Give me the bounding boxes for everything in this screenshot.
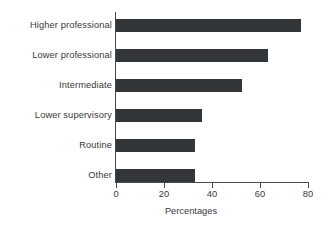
- category-label-other: Other: [4, 170, 112, 181]
- x-tick-label-60: 60: [255, 189, 265, 200]
- x-axis-title: Percentages: [0, 206, 332, 217]
- bar-chart: Higher professional Lower professional I…: [0, 0, 332, 231]
- bar-higher-professional: [116, 19, 301, 32]
- category-label-lower-professional: Lower professional: [4, 50, 112, 61]
- x-tick-80: [308, 183, 309, 188]
- category-label-intermediate: Intermediate: [4, 80, 112, 91]
- bar-lower-professional: [116, 49, 268, 62]
- x-tick-60: [260, 183, 261, 188]
- x-tick-label-40: 40: [207, 189, 217, 200]
- category-axis-labels: Higher professional Lower professional I…: [0, 0, 112, 231]
- plot-area: [116, 12, 308, 182]
- bar-other: [116, 169, 195, 182]
- x-tick-label-0: 0: [113, 189, 118, 200]
- y-axis-line: [115, 12, 116, 182]
- category-label-lower-supervisory: Lower supervisory: [4, 110, 112, 121]
- category-label-routine: Routine: [4, 140, 112, 151]
- x-tick-40: [212, 183, 213, 188]
- bar-intermediate: [116, 79, 242, 92]
- category-label-higher-professional: Higher professional: [4, 20, 112, 31]
- x-tick-label-80: 80: [303, 189, 313, 200]
- bar-routine: [116, 139, 195, 152]
- bar-lower-supervisory: [116, 109, 202, 122]
- x-tick-label-20: 20: [159, 189, 169, 200]
- x-tick-0: [116, 183, 117, 188]
- x-tick-20: [164, 183, 165, 188]
